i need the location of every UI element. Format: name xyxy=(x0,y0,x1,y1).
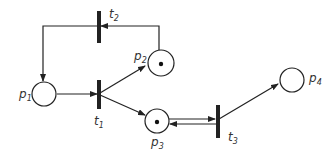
transition-t1 xyxy=(97,80,101,109)
labels: p1 p2 p3 p4 t1 t2 t3 xyxy=(18,7,322,151)
places xyxy=(32,50,304,133)
place-p1 xyxy=(32,82,56,106)
label-t2: t2 xyxy=(109,7,119,23)
token-p3 xyxy=(155,120,159,124)
transition-t3 xyxy=(216,105,220,138)
arc-t2-p1 xyxy=(43,26,98,81)
label-t1: t1 xyxy=(94,114,104,130)
arc-t1-p2 xyxy=(100,66,145,93)
transition-t2 xyxy=(97,11,101,43)
label-t3: t3 xyxy=(228,130,238,146)
petri-net-diagram: p1 p2 p3 p4 t1 t2 t3 xyxy=(0,0,335,155)
arc-t1-p3 xyxy=(100,95,145,115)
arc-p2-t2 xyxy=(101,26,159,50)
arc-t3-p4 xyxy=(219,84,278,119)
label-p2: p2 xyxy=(133,49,147,65)
place-p4 xyxy=(280,68,304,92)
label-p3: p3 xyxy=(150,135,164,151)
label-p1: p1 xyxy=(18,87,32,103)
label-p4: p4 xyxy=(308,71,322,87)
token-p2 xyxy=(159,62,163,66)
